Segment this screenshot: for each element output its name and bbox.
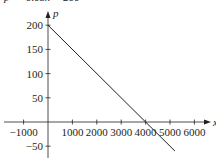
x-axis-label: x <box>212 116 216 128</box>
tick-labels: −1000100020003000400050006000−5050100150… <box>9 19 205 152</box>
x-axis-arrow-icon <box>204 120 211 125</box>
y-tick-label: 200 <box>27 19 44 31</box>
y-axis-label: p <box>52 7 59 19</box>
x-tick-label: 4000 <box>135 126 158 138</box>
x-tick-label: 5000 <box>159 126 182 138</box>
y-tick-label: 100 <box>27 68 44 80</box>
y-tick-label: 150 <box>27 43 44 55</box>
y-tick-label: 50 <box>32 92 44 104</box>
chart-canvas: xp −1000100020003000400050006000−5050100… <box>0 0 216 158</box>
y-axis-arrow-icon <box>46 11 51 18</box>
y-tick-label: −50 <box>26 140 44 152</box>
x-tick-label: 2000 <box>86 126 109 138</box>
x-tick-label: 1000 <box>61 126 84 138</box>
x-tick-label: −1000 <box>9 126 38 138</box>
x-tick-label: 6000 <box>183 126 206 138</box>
x-tick-label: 3000 <box>110 126 133 138</box>
